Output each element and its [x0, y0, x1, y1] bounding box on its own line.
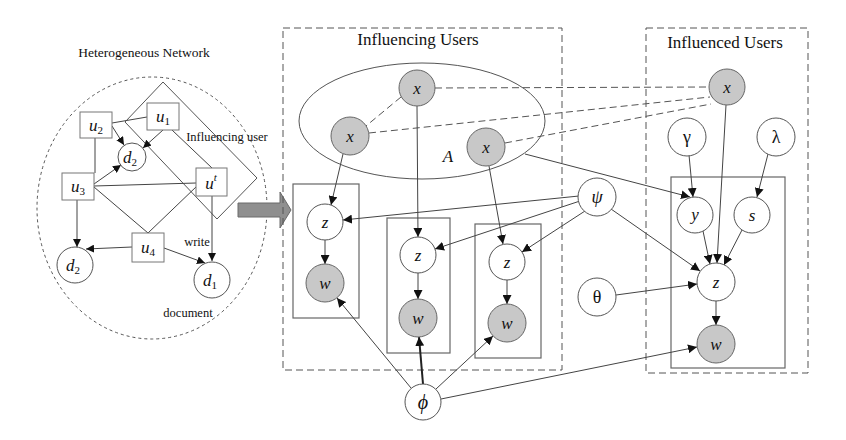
phi-node: ϕ	[405, 384, 441, 420]
edge-u1-d2	[143, 130, 163, 148]
edge-s-z	[724, 230, 742, 265]
svg-text:ϕ: ϕ	[418, 391, 428, 414]
edge-theta-zinfluenced	[616, 284, 697, 295]
edge-phi-w3	[436, 336, 493, 389]
influencer-node-x-left: x	[331, 117, 369, 155]
write-label: write	[184, 235, 210, 249]
theta-node: θ	[578, 278, 616, 316]
word-node-w-influenced: w	[697, 325, 735, 363]
svg-text:γ: γ	[682, 127, 691, 147]
svg-text:x: x	[481, 138, 490, 157]
influencer-node-x-top: x	[399, 70, 435, 106]
source-node-s: s	[734, 197, 770, 233]
edge-psi-z1	[343, 196, 579, 220]
document-node-d1: d1	[194, 262, 230, 298]
influencing-user-label: Influencing user	[186, 130, 268, 144]
user-node-u1: u1	[147, 103, 179, 130]
document-node-d2-lower: d2	[57, 247, 93, 283]
edge-gamma-y	[689, 155, 693, 197]
psi-node: ψ	[578, 178, 616, 216]
edge-u4-d2-lower	[86, 247, 132, 249]
edge-xleft-z1	[331, 154, 343, 205]
svg-text:w: w	[710, 335, 722, 354]
svg-text:x: x	[412, 79, 421, 98]
topic-node-z1: z	[307, 204, 343, 240]
edge-lambda-s	[757, 154, 768, 197]
influenced-users-title: Influenced Users	[667, 33, 783, 52]
influencer-node-x-right: x	[467, 128, 505, 166]
svg-text:w: w	[319, 274, 331, 293]
edge-u3-ut	[94, 183, 196, 186]
word-node-w2: w	[399, 299, 437, 337]
influenced-node-x: x	[709, 69, 745, 105]
svg-text:λ: λ	[772, 127, 781, 147]
edge-ut-u4	[148, 186, 197, 233]
edge-phi-winfluenced	[441, 347, 697, 399]
svg-text:w: w	[501, 314, 513, 333]
edge-phi-w2	[419, 337, 423, 384]
edge-y-z	[703, 231, 710, 264]
user-node-ut: ut	[196, 168, 227, 196]
influencing-users-title: Influencing Users	[357, 30, 478, 49]
svg-text:y: y	[689, 205, 699, 224]
lambda-node: λ	[757, 118, 795, 156]
edge-xinfluenced-z	[717, 105, 726, 263]
document-node-d2-upper: d2	[118, 143, 146, 171]
svg-text:θ: θ	[593, 287, 602, 307]
word-node-w1: w	[306, 264, 344, 302]
topic-node-z-influenced: z	[697, 263, 735, 301]
heterogeneous-network-title: Heterogeneous Network	[78, 45, 210, 60]
svg-text:x: x	[722, 78, 731, 97]
edge-u2-d2	[112, 126, 124, 145]
topic-node-z2: z	[400, 237, 436, 273]
svg-text:x: x	[345, 127, 354, 146]
influence-topic-model-diagram: Heterogeneous Network Influencing user u…	[0, 0, 846, 440]
edge-xtop-z2	[417, 106, 418, 237]
svg-text:z: z	[712, 273, 720, 292]
heterogeneous-network-panel: Heterogeneous Network Influencing user u…	[37, 45, 269, 339]
svg-text:w: w	[412, 309, 424, 328]
edge-u3-u4	[94, 187, 148, 233]
influencer-set-label: A	[442, 147, 454, 166]
edge-u3-d2	[94, 165, 121, 184]
edge-u4-d1	[164, 248, 205, 263]
gamma-node: γ	[668, 118, 706, 156]
svg-text:z: z	[503, 253, 511, 272]
topic-node-z3: z	[489, 244, 525, 280]
svg-text:ψ: ψ	[591, 187, 603, 207]
user-node-u2: u2	[80, 112, 112, 138]
svg-text:z: z	[321, 213, 329, 232]
user-node-u4: u4	[132, 233, 164, 262]
svg-text:z: z	[414, 246, 422, 265]
edge-xtop-xleft	[366, 97, 401, 126]
switch-node-y: y	[677, 197, 713, 233]
user-node-u3: u3	[62, 173, 94, 200]
svg-text:s: s	[749, 206, 756, 225]
word-node-w3: w	[488, 304, 526, 342]
edge-xtop-xinfluenced	[435, 87, 709, 88]
document-label: document	[163, 306, 213, 320]
